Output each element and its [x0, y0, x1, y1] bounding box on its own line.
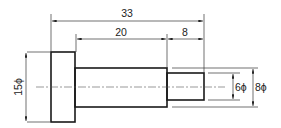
- dim-label-end-dia: 6ϕ: [235, 81, 247, 93]
- dim-label-overall: 33: [121, 7, 133, 19]
- end-shaft: [167, 73, 204, 100]
- dim-label-middle-dia: 8ϕ: [255, 81, 267, 93]
- dim-label-flange-dia: 15ϕ: [12, 78, 24, 96]
- shaft-drawing: 33 20 8 15ϕ 6ϕ 8ϕ: [0, 0, 281, 128]
- dim-label-end: 8: [182, 26, 188, 38]
- middle-shaft: [75, 68, 167, 107]
- dim-label-middle: 20: [115, 26, 127, 38]
